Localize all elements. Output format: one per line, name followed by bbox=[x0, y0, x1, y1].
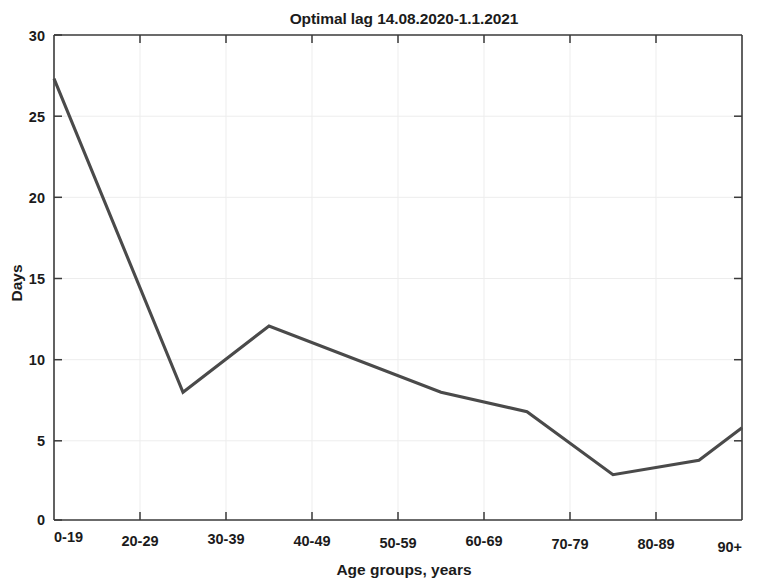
x-axis-title: Age groups, years bbox=[336, 561, 471, 578]
x-tick-label-40-49: 40-49 bbox=[293, 533, 330, 549]
y-tick-label-20: 20 bbox=[29, 190, 45, 206]
x-tick-label-50-59: 50-59 bbox=[379, 535, 416, 551]
x-tick-label-70-79: 70-79 bbox=[551, 536, 588, 552]
chart-title: Optimal lag 14.08.2020-1.1.2021 bbox=[290, 10, 519, 27]
x-tick-label-30-39: 30-39 bbox=[207, 531, 244, 547]
y-tick-label-5: 5 bbox=[37, 433, 45, 449]
y-tick-label-0: 0 bbox=[37, 512, 45, 528]
line-chart-canvas: 0 5 10 15 20 25 30 0-19 20-29 30-39 40-4… bbox=[0, 0, 764, 583]
y-tick-label-30: 30 bbox=[29, 28, 45, 44]
y-tick-label-25: 25 bbox=[29, 109, 45, 125]
x-tick-label-20-29: 20-29 bbox=[121, 533, 158, 549]
chart-figure: 0 5 10 15 20 25 30 0-19 20-29 30-39 40-4… bbox=[0, 0, 764, 583]
y-tick-label-15: 15 bbox=[29, 271, 45, 287]
x-tick-label-60-69: 60-69 bbox=[465, 533, 502, 549]
x-tick-label-0-19: 0-19 bbox=[54, 529, 83, 545]
x-axis-tick-labels: 0-19 20-29 30-39 40-49 50-59 60-69 70-79… bbox=[54, 529, 742, 555]
y-axis-tick-labels: 0 5 10 15 20 25 30 bbox=[29, 28, 45, 528]
x-tick-label-80-89: 80-89 bbox=[637, 536, 674, 552]
x-tick-label-90-plus: 90+ bbox=[717, 539, 742, 555]
y-axis-title: Days bbox=[8, 264, 25, 301]
y-tick-label-10: 10 bbox=[29, 352, 45, 368]
